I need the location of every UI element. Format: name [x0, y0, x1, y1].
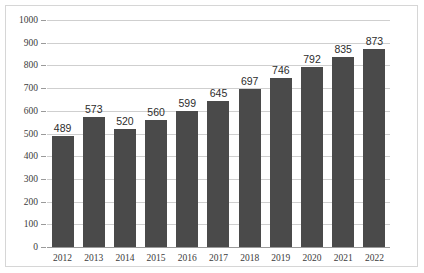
bar-value-label: 697 — [241, 75, 259, 87]
y-axis-tick-label: 100 — [24, 219, 38, 229]
bar-chart-figure: 01002003004005006007008009001000 4892012… — [0, 0, 424, 273]
y-axis-tick-label: 200 — [24, 197, 38, 207]
bar — [114, 129, 136, 247]
bar-group: 7462019 — [265, 20, 296, 247]
x-axis-tick-label: 2014 — [115, 253, 134, 263]
bar — [301, 67, 323, 247]
bar-value-label: 645 — [210, 87, 228, 99]
x-axis-tick-label: 2018 — [240, 253, 259, 263]
bar-group: 5602015 — [141, 20, 172, 247]
bar — [270, 78, 292, 247]
y-axis-tick — [41, 88, 46, 89]
gridline — [47, 247, 390, 248]
x-axis-tick-label: 2016 — [178, 253, 197, 263]
y-axis-tick-label: 600 — [24, 106, 38, 116]
y-axis-tick-label: 700 — [24, 83, 38, 93]
bar — [83, 117, 105, 247]
bar-value-label: 560 — [147, 106, 165, 118]
y-axis-tick-label: 0 — [33, 242, 38, 252]
bar-value-label: 746 — [272, 64, 290, 76]
bar-value-label: 873 — [366, 35, 384, 47]
y-axis-tick-label: 1000 — [19, 15, 38, 25]
y-axis-tick — [41, 224, 46, 225]
bar — [207, 101, 229, 247]
bar — [239, 89, 261, 247]
bar-group: 6452017 — [203, 20, 234, 247]
y-axis-tick — [41, 111, 46, 112]
x-axis-tick-label: 2019 — [271, 253, 290, 263]
bar-value-label: 520 — [116, 115, 134, 127]
x-axis-tick-label: 2020 — [303, 253, 322, 263]
bar-group: 7922020 — [296, 20, 327, 247]
bar-group: 5992016 — [172, 20, 203, 247]
y-axis-tick-label: 800 — [24, 60, 38, 70]
bar — [363, 49, 385, 247]
bar — [145, 120, 167, 247]
bar-group: 8732022 — [359, 20, 390, 247]
bar-value-label: 599 — [179, 97, 197, 109]
x-axis-tick-label: 2021 — [334, 253, 353, 263]
bar — [332, 57, 354, 247]
plot-area: 01002003004005006007008009001000 4892012… — [47, 20, 390, 247]
bar — [176, 111, 198, 247]
bar-group: 5732013 — [78, 20, 109, 247]
bar-value-label: 489 — [54, 122, 72, 134]
x-axis-tick-label: 2017 — [209, 253, 228, 263]
x-axis-tick-label: 2013 — [84, 253, 103, 263]
bar-group: 4892012 — [47, 20, 78, 247]
y-axis-tick — [41, 202, 46, 203]
bar-value-label: 792 — [303, 53, 321, 65]
x-axis-tick-label: 2022 — [365, 253, 384, 263]
y-axis-tick — [41, 247, 46, 248]
y-axis-tick — [41, 65, 46, 66]
y-axis-tick — [41, 134, 46, 135]
bar-value-label: 835 — [334, 43, 352, 55]
bar-group: 8352021 — [328, 20, 359, 247]
bar-group: 5202014 — [109, 20, 140, 247]
y-axis-tick-label: 500 — [24, 129, 38, 139]
bar-group: 6972018 — [234, 20, 265, 247]
bar-value-label: 573 — [85, 103, 103, 115]
y-axis-tick — [41, 20, 46, 21]
bars-group: 4892012573201352020145602015599201664520… — [47, 20, 390, 247]
y-axis-tick — [41, 43, 46, 44]
x-axis-tick-label: 2015 — [147, 253, 166, 263]
y-axis-tick-label: 900 — [24, 38, 38, 48]
bar — [52, 136, 74, 247]
y-axis-tick-label: 300 — [24, 174, 38, 184]
y-axis-tick — [41, 179, 46, 180]
y-axis-tick-label: 400 — [24, 151, 38, 161]
y-axis-tick — [41, 156, 46, 157]
x-axis-tick-label: 2012 — [53, 253, 72, 263]
